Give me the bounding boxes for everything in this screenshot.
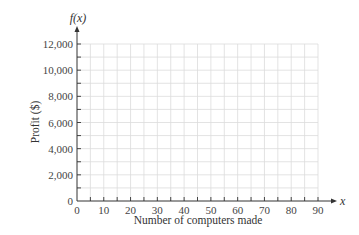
chart: 0102030405060708090 02,0004,0006,0008,00… <box>0 0 359 235</box>
y-tick-label: 8,000 <box>48 90 73 102</box>
grid-lines <box>77 44 318 201</box>
x-axis-label: Number of computers made <box>134 214 263 227</box>
y-tick-label: 10,000 <box>43 64 74 76</box>
x-axis-symbol: x <box>339 194 346 208</box>
y-tick-labels: 02,0004,0006,0008,00010,00012,000 <box>43 38 74 207</box>
axes <box>75 26 338 204</box>
y-tick-label: 12,000 <box>43 38 74 50</box>
x-tick-label: 0 <box>74 204 80 216</box>
y-tick-label: 4,000 <box>48 143 73 155</box>
y-axis-arrow-icon <box>75 26 80 32</box>
y-tick-label: 2,000 <box>48 169 73 181</box>
x-tick-label: 90 <box>313 204 325 216</box>
y-axis-label: Profit ($) <box>29 101 42 144</box>
x-axis-arrow-icon <box>331 199 337 204</box>
x-tick-label: 80 <box>286 204 298 216</box>
x-tick-label: 10 <box>98 204 110 216</box>
y-tick-label: 6,000 <box>48 117 73 129</box>
y-axis-symbol: f(x) <box>70 11 87 25</box>
y-tick-label: 0 <box>68 195 74 207</box>
